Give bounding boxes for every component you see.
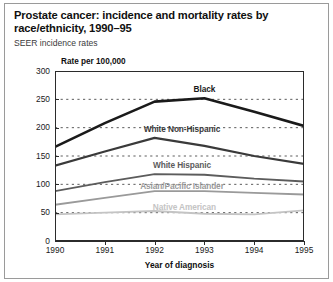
figure-root: Prostate cancer: incidence and mortality… — [0, 0, 333, 282]
y-tick-mark — [55, 99, 59, 100]
y-tick-label: 0 — [26, 236, 50, 246]
chart-subtitle: SEER incidence rates — [14, 38, 314, 48]
y-tick-mark — [55, 184, 59, 185]
x-axis-tick-labels: 199019911992199319941995 — [55, 243, 304, 257]
series-label: White Hispanic — [153, 160, 211, 170]
x-axis-title: Year of diagnosis — [55, 260, 304, 270]
page-title: Prostate cancer: incidence and mortality… — [14, 9, 314, 36]
series-label: Native American — [153, 202, 216, 212]
x-tick-mark — [105, 241, 106, 245]
y-tick-label: 150 — [26, 151, 50, 161]
x-tick-label: 1994 — [245, 245, 264, 255]
y-tick-label: 100 — [26, 179, 50, 189]
x-tick-mark — [304, 241, 305, 245]
y-tick-label: 250 — [26, 94, 50, 104]
x-tick-label: 1991 — [95, 245, 114, 255]
y-tick-label: 300 — [26, 66, 50, 76]
x-tick-label: 1993 — [195, 245, 214, 255]
x-axis-line — [55, 240, 304, 242]
y-axis-unit-label: Rate per 100,000 — [61, 57, 126, 66]
y-tick-label: 200 — [26, 122, 50, 132]
series-label: White Non-Hispanic — [144, 124, 221, 134]
chart-lines — [55, 71, 304, 241]
y-tick-mark — [55, 128, 59, 129]
x-tick-mark — [155, 241, 156, 245]
x-tick-label: 1992 — [145, 245, 164, 255]
plot-area — [55, 71, 304, 241]
x-tick-label: 1995 — [295, 245, 314, 255]
x-tick-label: 1990 — [46, 245, 65, 255]
x-tick-mark — [254, 241, 255, 245]
y-tick-mark — [55, 156, 59, 157]
y-tick-mark — [55, 213, 59, 214]
x-tick-mark — [204, 241, 205, 245]
series-line — [55, 98, 304, 147]
title-block: Prostate cancer: incidence and mortality… — [14, 9, 314, 48]
y-axis-tick-labels: 050100150200250300 — [22, 71, 50, 241]
y-tick-label: 50 — [26, 207, 50, 217]
series-label: Black — [194, 84, 216, 94]
series-label: Asian/Pacific Islander — [140, 181, 224, 191]
